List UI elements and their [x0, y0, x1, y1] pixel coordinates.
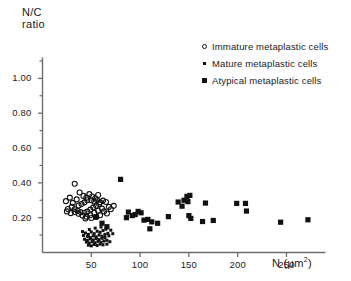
- data-point-dot: [96, 244, 99, 247]
- x-tick-label: 200: [223, 259, 253, 270]
- y-tick-label: 0.60: [2, 142, 32, 153]
- data-point-square: [243, 201, 248, 206]
- legend-label-immature: Immature metaplastic cells: [212, 41, 328, 52]
- data-point-dot: [95, 237, 98, 240]
- data-point-dot: [99, 243, 102, 246]
- data-point-dot: [103, 233, 106, 236]
- data-point-dot: [86, 235, 89, 238]
- data-point-square: [104, 224, 109, 229]
- data-point-dot: [97, 240, 100, 243]
- open-circle-marker-icon: [196, 44, 212, 49]
- data-point-dot: [98, 234, 101, 237]
- data-point-dot: [91, 240, 94, 243]
- data-point-dot: [90, 244, 93, 247]
- series-square: [94, 177, 311, 232]
- data-point-dot: [107, 234, 110, 237]
- data-point-dot: [83, 238, 86, 241]
- data-point-square: [305, 217, 310, 222]
- data-point-square: [99, 221, 104, 226]
- data-point-dot: [92, 234, 95, 237]
- data-point-dot: [96, 230, 99, 233]
- data-point-square: [149, 219, 154, 224]
- data-point-square: [200, 219, 205, 224]
- data-point-dot: [102, 243, 105, 246]
- y-tick-label: 0.20: [2, 212, 32, 223]
- legend-item-atypical: Atypical metaplastic cells: [196, 72, 328, 89]
- data-point-open-circle: [96, 193, 101, 198]
- y-tick-label: 0.40: [2, 177, 32, 188]
- x-tick-label: 50: [76, 259, 106, 270]
- data-point-square: [203, 200, 208, 205]
- data-point-dot: [99, 231, 102, 234]
- data-point-square: [185, 199, 190, 204]
- data-point-open-circle: [74, 197, 79, 202]
- square-marker-icon: [196, 78, 212, 83]
- dot-marker-icon: [196, 62, 212, 65]
- data-point-square: [155, 221, 160, 226]
- data-point-square: [187, 193, 192, 198]
- data-point-open-circle: [72, 181, 77, 186]
- data-point-square: [179, 204, 184, 209]
- data-point-dot: [102, 229, 105, 232]
- legend-item-immature: Immature metaplastic cells: [196, 38, 328, 55]
- data-point-square: [211, 218, 216, 223]
- data-point-square: [147, 226, 152, 231]
- data-point-open-circle: [111, 203, 116, 208]
- data-point-square: [278, 220, 283, 225]
- data-point-open-circle: [63, 199, 68, 204]
- data-point-square: [94, 214, 99, 219]
- data-point-dot: [85, 241, 88, 244]
- legend-label-mature: Mature metaplastic cells: [212, 58, 318, 69]
- data-point-dot: [94, 227, 97, 230]
- data-point-dot: [93, 243, 96, 246]
- data-point-square: [234, 201, 239, 206]
- legend-label-atypical: Atypical metaplastic cells: [212, 75, 322, 86]
- data-point-dot: [101, 237, 104, 240]
- y-tick-label: 1.00: [2, 72, 32, 83]
- data-point-square: [244, 208, 249, 213]
- data-point-square: [118, 177, 123, 182]
- x-tick-label: 250: [271, 259, 301, 270]
- x-tick-label: 100: [125, 259, 155, 270]
- scatter-chart: N/C ratio N (μm2) Immature metaplastic c…: [0, 0, 351, 281]
- data-point-dot: [89, 237, 92, 240]
- data-point-dot: [103, 236, 106, 239]
- data-point-dot: [87, 244, 90, 247]
- data-point-dot: [105, 243, 108, 246]
- data-point-square: [188, 216, 193, 221]
- series-open-circle: [63, 181, 116, 221]
- data-point-square: [138, 210, 143, 215]
- data-point-dot: [108, 240, 111, 243]
- x-tick-label: 150: [174, 259, 204, 270]
- data-point-dot: [100, 226, 103, 229]
- data-point-dot: [88, 228, 91, 231]
- legend-item-mature: Mature metaplastic cells: [196, 55, 328, 72]
- data-point-square: [166, 214, 171, 219]
- data-point-dot: [111, 232, 114, 235]
- data-point-dot: [105, 239, 108, 242]
- data-point-dot: [102, 240, 105, 243]
- data-point-dot: [81, 230, 84, 233]
- data-point-dot: [109, 229, 112, 232]
- data-point-dot: [82, 234, 85, 237]
- y-tick-label: 0.80: [2, 107, 32, 118]
- legend: Immature metaplastic cells Mature metapl…: [196, 38, 328, 89]
- data-point-square: [124, 215, 129, 220]
